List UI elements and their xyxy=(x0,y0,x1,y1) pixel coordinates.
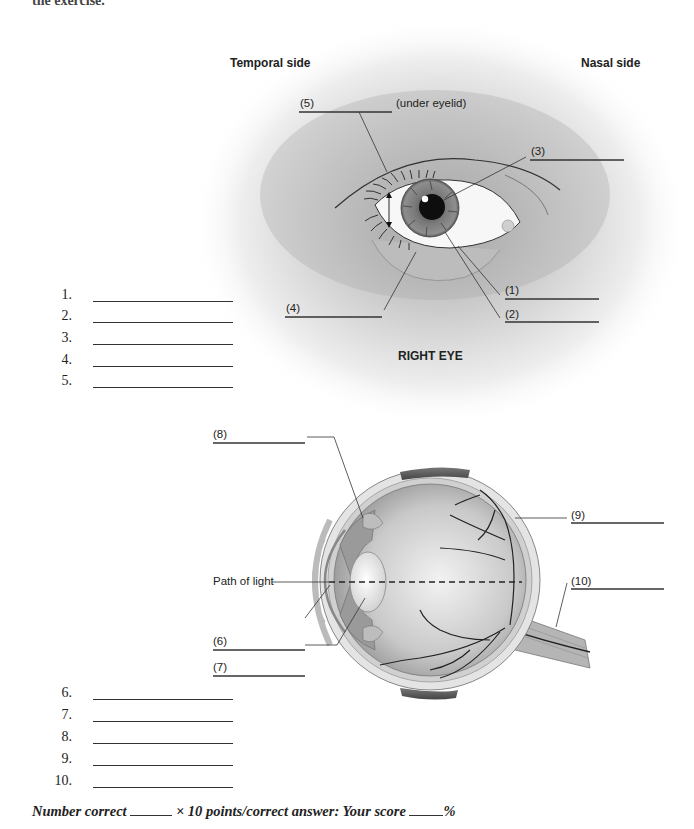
answer-number: 7. xyxy=(62,707,73,723)
nasal-side-label: Nasal side xyxy=(581,56,640,70)
answer-blank[interactable] xyxy=(93,322,233,323)
number-correct-label: Number correct xyxy=(32,803,127,819)
right-eye-title: RIGHT EYE xyxy=(398,349,463,363)
label-1: (1) xyxy=(505,284,519,296)
answer-row-4[interactable]: 4. xyxy=(40,352,200,372)
label-4: (4) xyxy=(286,302,300,314)
score-blank[interactable] xyxy=(409,803,443,816)
label-8: (8) xyxy=(213,428,227,440)
answer-blank[interactable] xyxy=(93,743,233,744)
answer-blank[interactable] xyxy=(93,366,233,367)
answer-number: 3. xyxy=(62,330,73,346)
answer-row-8[interactable]: 8. xyxy=(40,729,200,749)
label-2: (2) xyxy=(505,308,519,320)
answer-row-7[interactable]: 7. xyxy=(40,707,200,727)
answer-blank[interactable] xyxy=(93,787,233,788)
answer-row-6[interactable]: 6. xyxy=(40,685,200,705)
answer-number: 10. xyxy=(55,773,73,789)
score-line: Number correct × 10 points/correct answe… xyxy=(32,803,456,820)
label-3: (3) xyxy=(531,145,545,157)
number-correct-blank[interactable] xyxy=(130,803,172,816)
answer-blank[interactable] xyxy=(93,387,233,388)
answer-row-10[interactable]: 10. xyxy=(40,773,200,793)
label-9: (9) xyxy=(571,509,585,521)
answer-number: 5. xyxy=(62,373,73,389)
label-6: (6) xyxy=(213,635,227,647)
answer-number: 9. xyxy=(62,751,73,767)
answer-row-3[interactable]: 3. xyxy=(40,330,200,350)
answer-blank[interactable] xyxy=(93,699,233,700)
answer-row-1[interactable]: 1. xyxy=(40,287,200,307)
answer-blank[interactable] xyxy=(93,344,233,345)
answer-row-5[interactable]: 5. xyxy=(40,373,200,393)
answer-blank[interactable] xyxy=(93,765,233,766)
answer-number: 4. xyxy=(62,352,73,368)
label-7: (7) xyxy=(213,661,227,673)
percent-sign: % xyxy=(443,803,455,819)
path-of-light-label: Path of light xyxy=(213,575,274,587)
answer-number: 1. xyxy=(62,287,73,303)
answer-row-2[interactable]: 2. xyxy=(40,308,200,328)
label-5: (5) xyxy=(300,97,314,109)
answer-number: 2. xyxy=(62,308,73,324)
temporal-side-label: Temporal side xyxy=(230,56,310,70)
answer-blank[interactable] xyxy=(93,721,233,722)
answer-row-9[interactable]: 9. xyxy=(40,751,200,771)
answer-number: 8. xyxy=(62,729,73,745)
score-multiplier-text: × 10 points/correct answer: Your score xyxy=(176,803,406,819)
label-5-note: (under eyelid) xyxy=(396,97,466,109)
answer-number: 6. xyxy=(62,685,73,701)
label-10: (10) xyxy=(571,575,591,587)
answer-blank[interactable] xyxy=(93,301,233,302)
